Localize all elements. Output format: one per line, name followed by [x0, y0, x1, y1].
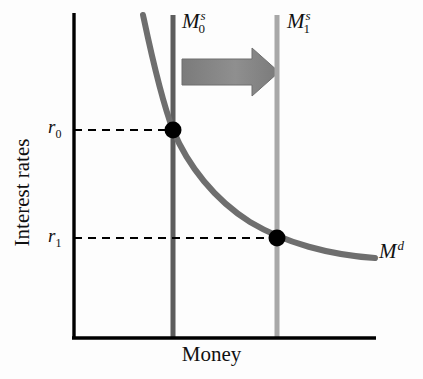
money-market-diagram: Ms0 Ms1 Md r0 r1 Money Interest rates [0, 0, 423, 379]
money-supply-shift-arrow-icon [182, 48, 279, 96]
money-supply-1-label-base: M [287, 9, 305, 33]
money-demand-label-superscript: d [398, 238, 405, 253]
y-tick-label-r0: r0 [48, 117, 61, 140]
y-tick-label-r0-subscript: 0 [55, 127, 61, 141]
y-tick-label-r1: r1 [48, 226, 61, 249]
x-axis-title: Money [0, 344, 423, 365]
equilibrium-point-initial [165, 122, 182, 139]
y-tick-label-r1-subscript: 1 [55, 236, 61, 250]
money-demand-label-base: M [379, 239, 397, 263]
money-supply-1-label-subscript: 1 [304, 21, 311, 36]
money-supply-0-label-base: M [182, 9, 200, 33]
money-supply-0-label: Ms0 [182, 9, 205, 35]
equilibrium-point-new [269, 230, 286, 247]
money-supply-0-label-subscript: 0 [199, 21, 206, 36]
y-axis-title: Interest rates [12, 123, 33, 263]
money-demand-label: Md [379, 239, 404, 262]
money-supply-1-label: Ms1 [287, 9, 310, 35]
plot-area [0, 0, 423, 379]
